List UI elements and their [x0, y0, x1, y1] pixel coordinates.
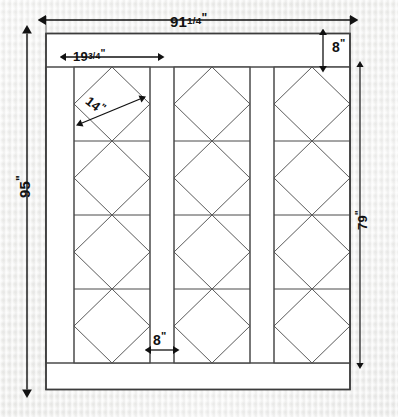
- quilt-body: [46, 34, 350, 390]
- label-sashing-width: 8": [153, 331, 166, 347]
- label-overall-width: 911/4": [170, 12, 207, 29]
- label-block-width: 193/4": [73, 49, 105, 63]
- label-inner-height: 79": [355, 211, 369, 230]
- label-border-width: 8": [332, 38, 345, 54]
- label-overall-height: 95": [15, 176, 32, 198]
- quilt-layout-diagram: [0, 0, 398, 417]
